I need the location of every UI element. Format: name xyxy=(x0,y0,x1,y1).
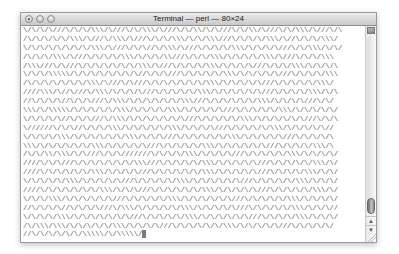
terminal-line: \\\/\/\\\\\/\/\/\/\/\/\\\/\/\/\/\/\\\/\/… xyxy=(23,106,365,115)
terminal-line: //\/\/\/\//\/\/\///\/\\\/\/\/\/\/\/\/\\\… xyxy=(23,97,365,106)
resize-grip-icon[interactable] xyxy=(366,232,376,242)
terminal-line: ////\\\/\//\///\/\\\/\/\/\/\///\/\/\/\/\… xyxy=(23,88,365,97)
scrollbar-thumb[interactable] xyxy=(367,198,375,214)
terminal-line: \/\/\/\///\/\/\/\\\/\///\/\/\\\/\///\/\/… xyxy=(23,26,365,35)
terminal-line: \/\/\/\/\/\\\/\/\/\/\/\///\/\/\/\/\/\\\/… xyxy=(23,177,365,186)
terminal-line: ////\/\/\/\/\/\/\/\\\/\/\/\///\/\/\/\/\/… xyxy=(23,186,365,195)
terminal-line: \/\/\/\\\/\/\/\/\/\/\///\/\/\/\/\/\\\/\/… xyxy=(23,195,365,204)
terminal-content[interactable]: \/\/\/\///\/\/\/\\\/\///\/\/\\\/\///\/\/… xyxy=(23,26,365,242)
terminal-line: /\/\/\/\\\/\///\/\/\/\/\\\/\/\/\/\\///\/… xyxy=(23,53,365,62)
terminal-line: ////\/\/\/\/\/\/\\\/\/\/\/\///\/\/\/\/\/… xyxy=(23,168,365,177)
scrollbar-track[interactable] xyxy=(367,36,375,204)
terminal-window: Terminal — perl — 80×24 \/\/\/\///\/\/\/… xyxy=(20,12,377,243)
terminal-line: /\\\///\/\///\/\/\/\/\/\/\/\\\/\///\/\/\… xyxy=(23,62,365,71)
terminal-line-text: //\/\/\/\/\/\/\\\\\/\/\\\\\/ xyxy=(23,230,142,238)
terminal-line: \/\/\/\/\\\/\/\/\/\/\/\/\///\/\/\/\/\/\\… xyxy=(23,213,365,222)
split-view-handle[interactable] xyxy=(367,27,375,34)
terminal-line: ////\/\/\///\/\/\/\/\/\/\/\\\///\/\/\/\/… xyxy=(23,159,365,168)
terminal-line: \\\/\/\/\/\/\/\/\\\/\/\/\/\/\///\/\/\/\/… xyxy=(23,142,365,151)
terminal-line-last: //\/\/\/\/\/\/\\\\\/\/\\\\\/ xyxy=(23,230,365,239)
terminal-line: \/\/\/\/\/\/\/\/\\\/\///\/\/\//\/\\\/\//… xyxy=(23,44,365,53)
terminal-line: /\/\\\/\\\/\/\/\/\/\/\\\/\/\/\/\///\/\/\… xyxy=(23,222,365,231)
text-cursor xyxy=(142,230,146,238)
terminal-line: \/\/\/\\\\\/\/\/\/\/\/\/\/\//\/\/\///\/\… xyxy=(23,70,365,79)
terminal-line: /\/\/\/\/\/\/\/\\\/\///\/\///\/\/\/\/\/\… xyxy=(23,79,365,88)
terminal-line: \/\/\/\/\//\/\/\///\/\\\/\/\/\/\/\/\/\//… xyxy=(23,115,365,124)
terminal-line: /\/\/\\/\\\/\/\///\/\/\///////\/\/\/\/\\… xyxy=(23,150,365,159)
terminal-line: //\/\/\/\//\/\/\/\///\/\\\/\/\/\/\/\/\\\… xyxy=(23,204,365,213)
scroll-up-arrow-icon[interactable]: ▲ xyxy=(366,216,376,224)
terminal-line: /\/\/\/\/\/\\\/\///\/\\\/\///\/\/\/\\\/\… xyxy=(23,35,365,44)
window-title: Terminal — perl — 80×24 xyxy=(21,13,376,25)
vertical-scrollbar[interactable]: ▲ ▼ xyxy=(365,26,376,242)
terminal-line: \/\/\/\/\\\/\/\/\/\/\/\/\\\/\/\/\///\/\/… xyxy=(23,133,365,142)
title-bar[interactable]: Terminal — perl — 80×24 xyxy=(21,13,376,26)
terminal-line: \//////\/\/\//\/\/\/\\\/\/\/\/\/\/\\\/\/… xyxy=(23,124,365,133)
